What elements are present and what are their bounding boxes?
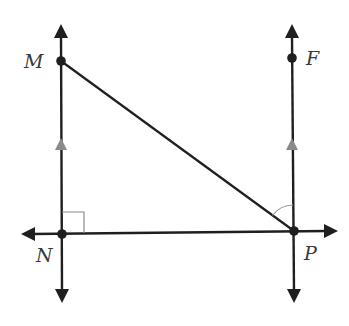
label-F: F (305, 47, 320, 69)
point-F (287, 53, 297, 63)
label-M: M (23, 50, 44, 72)
arrowhead-down-icon (287, 289, 301, 303)
parallel-mark-icon (55, 138, 67, 150)
right-angle-mark-icon (62, 212, 84, 233)
point-N (57, 229, 67, 239)
label-N: N (35, 244, 54, 266)
arrowhead-down-icon (55, 289, 69, 303)
arrowhead-up-icon (285, 24, 299, 38)
point-M (56, 56, 66, 66)
point-P (289, 226, 299, 236)
parallel-mark-icon (286, 138, 298, 150)
arrowhead-left-icon (21, 227, 35, 241)
geometry-diagram: M F N P (0, 0, 349, 326)
arrowhead-right-icon (324, 224, 338, 238)
arrowhead-up-icon (54, 24, 68, 38)
segment-MP (61, 61, 294, 231)
line-FP (285, 24, 301, 303)
angle-arc-icon (273, 205, 294, 215)
label-P: P (303, 242, 318, 264)
